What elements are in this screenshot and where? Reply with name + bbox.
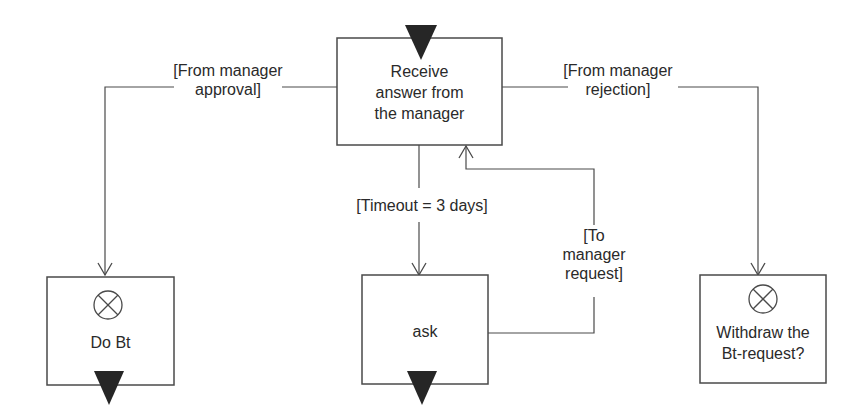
guard-rejection: [From manager rejection] bbox=[560, 61, 676, 99]
label-line: Withdraw the bbox=[700, 322, 826, 343]
guard-line: manager bbox=[552, 245, 636, 264]
guard-line: request] bbox=[552, 264, 636, 283]
do-bt-node-label: Do Bt bbox=[47, 332, 174, 353]
receive-node-label: Receive answer from the manager bbox=[337, 61, 502, 124]
label-line: Bt-request? bbox=[700, 343, 826, 364]
end-triangle-icon bbox=[94, 371, 124, 405]
end-triangle-icon bbox=[407, 371, 437, 405]
label-line: the manager bbox=[337, 103, 502, 124]
guard-line: [From manager bbox=[170, 61, 286, 80]
withdraw-node-label: Withdraw the Bt-request? bbox=[700, 322, 826, 364]
guard-timeout: [Timeout = 3 days] bbox=[334, 196, 510, 215]
guard-to-manager-request: [To manager request] bbox=[552, 226, 636, 283]
guard-line: [To bbox=[552, 226, 636, 245]
guard-approval: [From manager approval] bbox=[170, 61, 286, 99]
guard-line: approval] bbox=[170, 80, 286, 99]
guard-line: [From manager bbox=[560, 61, 676, 80]
guard-line: rejection] bbox=[560, 80, 676, 99]
do-bt-node[interactable] bbox=[47, 277, 174, 385]
label-line: Receive bbox=[337, 61, 502, 82]
label-line: answer from bbox=[337, 82, 502, 103]
ask-node-label: ask bbox=[362, 321, 488, 342]
edge-approval[interactable] bbox=[98, 87, 337, 275]
